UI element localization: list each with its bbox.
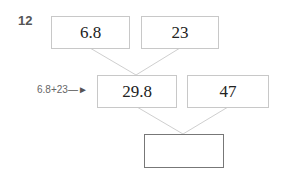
hint-expression: 6.8+23 — [37, 84, 68, 95]
middle-left-box: 29.8 — [97, 75, 177, 108]
hint-label: 6.8+23—► — [37, 84, 88, 95]
middle-right-box: 47 — [187, 75, 269, 108]
connector-line — [136, 48, 180, 75]
top-left-box: 6.8 — [51, 16, 130, 49]
connector-line — [183, 107, 228, 134]
middle-left-value: 29.8 — [122, 82, 152, 102]
top-right-box: 23 — [141, 16, 219, 49]
top-right-value: 23 — [172, 23, 189, 43]
right-arrow-icon: —► — [68, 84, 88, 95]
middle-right-value: 47 — [220, 82, 237, 102]
connector-line — [90, 48, 136, 75]
top-left-value: 6.8 — [80, 23, 101, 43]
problem-number: 12 — [18, 13, 32, 28]
answer-box[interactable] — [144, 134, 224, 168]
connector-line — [137, 107, 183, 134]
